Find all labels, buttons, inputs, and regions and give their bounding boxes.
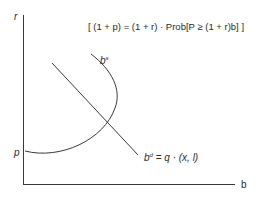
y-axis-label: r (14, 12, 17, 22)
x-axis-label: b (241, 180, 247, 190)
diagram: r b p [ (1 + p) = (1 + r) · Prob[P ≥ (1 … (0, 0, 262, 202)
equilibrium-equation: [ (1 + p) = (1 + r) · Prob[P ≥ (1 + r)b]… (88, 22, 244, 32)
supply-curve-label: bs (100, 55, 109, 66)
demand-curve (52, 63, 138, 155)
supply-curve (25, 54, 117, 153)
demand-curve-label: bd = q · (x, l) (144, 152, 198, 163)
y-intercept-label: p (14, 148, 20, 158)
